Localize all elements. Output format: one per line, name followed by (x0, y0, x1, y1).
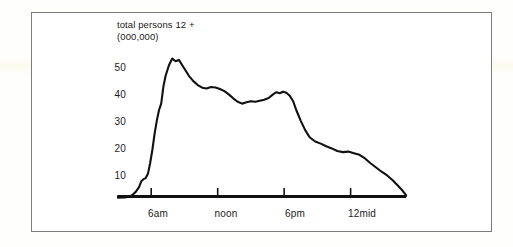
figure-page: total persons 12 + (000,000) 50 40 30 20… (0, 0, 513, 247)
chart-svg (0, 0, 513, 247)
x-axis-ticks (151, 188, 350, 195)
plot-area: total persons 12 + (000,000) 50 40 30 20… (0, 0, 513, 247)
data-series-line (118, 59, 406, 198)
